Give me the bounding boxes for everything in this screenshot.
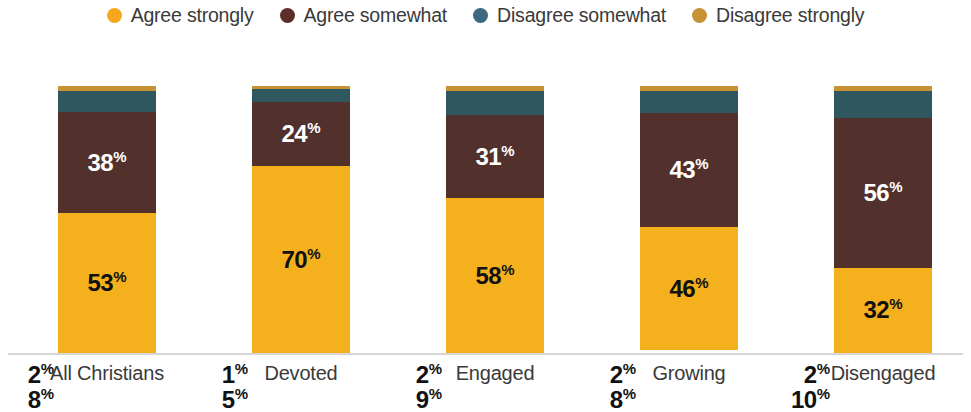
legend-item-label: Agree strongly: [131, 4, 254, 27]
percent-sign: %: [113, 148, 126, 165]
percent-sign: %: [695, 274, 708, 291]
legend-item[interactable]: Agree strongly: [107, 4, 254, 27]
segment-value-label: 32%: [863, 298, 902, 322]
bar-segment[interactable]: [640, 91, 738, 112]
bar-segment[interactable]: [58, 91, 156, 112]
axis-baseline: [8, 353, 963, 355]
bar-segment[interactable]: 56%: [834, 118, 932, 268]
segment-value-label: 70%: [281, 248, 320, 272]
legend-dot-icon: [692, 8, 707, 23]
percent-sign: %: [501, 261, 514, 278]
segment-value-label: 31%: [475, 145, 514, 169]
legend-dot-icon: [473, 8, 488, 23]
chart-legend: Agree stronglyAgree somewhatDisagree som…: [0, 4, 971, 27]
stacked-bar[interactable]: 43%46%: [640, 86, 738, 353]
bar-segment[interactable]: 38%: [58, 112, 156, 212]
bar-segment[interactable]: [252, 89, 350, 102]
category-label: Engaged: [398, 362, 592, 385]
bar-segment[interactable]: 43%: [640, 113, 738, 228]
segment-value-label: 46%: [669, 277, 708, 301]
bar-segment[interactable]: 46%: [640, 227, 738, 350]
percent-sign: %: [113, 268, 126, 285]
percent-sign: %: [695, 155, 708, 172]
category-label: All Christians: [10, 362, 204, 385]
category-axis-labels: All ChristiansDevotedEngagedGrowingDisen…: [0, 362, 971, 393]
percent-sign: %: [307, 119, 320, 136]
category-label: Growing: [592, 362, 786, 385]
legend-item[interactable]: Agree somewhat: [280, 4, 448, 27]
segment-value-label: 43%: [669, 158, 708, 182]
legend-item-label: Disagree somewhat: [497, 4, 666, 27]
legend-dot-icon: [107, 8, 122, 23]
segment-value-label: 56%: [863, 181, 902, 205]
stacked-bar[interactable]: 38%53%: [58, 86, 156, 353]
stacked-bar-plot: 2%8%38%53%1%5%24%70%2%9%31%58%2%8%43%46%…: [0, 48, 971, 355]
legend-item-label: Agree somewhat: [304, 4, 448, 27]
category-label: Disengaged: [786, 362, 971, 385]
bar-segment[interactable]: [834, 91, 932, 118]
stacked-bar[interactable]: 24%70%: [252, 86, 350, 353]
bar-segment[interactable]: 24%: [252, 102, 350, 166]
bar-segment[interactable]: 32%: [834, 268, 932, 353]
segment-value-label: 58%: [475, 264, 514, 288]
bar-segment[interactable]: [446, 91, 544, 115]
stacked-bar[interactable]: 56%32%: [834, 86, 932, 353]
percent-sign: %: [307, 245, 320, 262]
segment-value-label: 53%: [87, 271, 126, 295]
bar-segment[interactable]: 70%: [252, 166, 350, 353]
bar-segment[interactable]: 53%: [58, 213, 156, 353]
bar-segment[interactable]: 31%: [446, 115, 544, 198]
category-label: Devoted: [204, 362, 398, 385]
legend-item-label: Disagree strongly: [716, 4, 864, 27]
legend-item[interactable]: Disagree somewhat: [473, 4, 666, 27]
stacked-bar[interactable]: 31%58%: [446, 86, 544, 353]
legend-dot-icon: [280, 8, 295, 23]
percent-sign: %: [889, 178, 902, 195]
legend-item[interactable]: Disagree strongly: [692, 4, 864, 27]
segment-value-label: 24%: [281, 122, 320, 146]
bar-segment[interactable]: 58%: [446, 198, 544, 353]
segment-value-label: 38%: [87, 151, 126, 175]
percent-sign: %: [501, 142, 514, 159]
percent-sign: %: [889, 295, 902, 312]
